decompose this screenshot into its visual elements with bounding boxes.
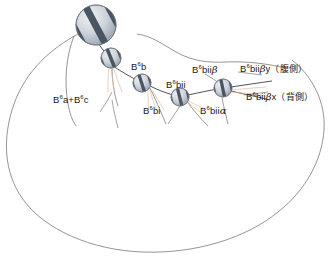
label-ventral-annotation: （腹側） (270, 64, 306, 74)
label-b6bii-alpha: B6biiα (200, 106, 227, 116)
nucleus-large (63, 0, 129, 60)
left-contour (66, 36, 76, 126)
beta-glyph: β (212, 64, 218, 75)
label-b6bii-beta-x: B6biiβx（背側） (246, 92, 313, 102)
label-b6a-b6c-mid: a+B (63, 94, 80, 105)
label-dorsal-annotation: （背側） (276, 92, 312, 102)
label-b6b: B6b (131, 62, 146, 72)
cell-lineage-figure: B6a+B6c B6b B6bi B6bii B6biiα B6biiβ B6b… (0, 0, 331, 258)
label-b6bii-beta-tail: bii (202, 64, 212, 75)
label-b6bii-beta-y: B6biiβy（腹側） (240, 64, 307, 74)
alpha-glyph: α (220, 105, 227, 116)
label-b6bi: B6bi (143, 106, 160, 116)
label-b6bi-tail: bi (153, 105, 161, 116)
label-b6bii-beta-x-tail: bii (256, 91, 266, 102)
label-b6bii-tail: bii (176, 79, 186, 90)
label-b6b-tail: b (141, 61, 146, 72)
label-b6a-b6c: B6a+B6c (53, 95, 89, 105)
figure-canvas (0, 0, 331, 258)
label-b6bii-alpha-tail: bii (210, 105, 220, 116)
nucleus-b6b (128, 69, 156, 98)
label-b6bii-beta-y-tail: bii (250, 63, 260, 74)
neurite-branches (112, 66, 228, 126)
label-b6bii: B6bii (166, 80, 186, 90)
label-b6bii-beta: B6biiβ (192, 65, 218, 75)
label-b6a-b6c-tail: c (84, 94, 89, 105)
